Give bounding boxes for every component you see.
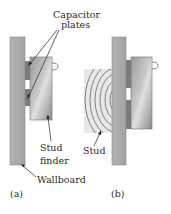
label-stud-finder-line1: Stud [40,142,63,153]
stud-finder-a [30,57,52,120]
caption-a: (a) [10,188,23,199]
caption-b: (b) [111,188,125,199]
hanging-loop-b-icon [152,62,158,69]
hanging-loop-a-icon [52,63,58,70]
stud-finder-b [131,57,152,129]
label-stud: Stud [83,145,106,156]
wallboard-b [112,37,126,165]
leader-wallboard [22,165,36,177]
wallboard-a [10,37,25,165]
label-capacitor-plates-line2: plates [61,19,90,30]
capacitor-plate-b-top [126,60,131,88]
leader-stud-finder [48,117,51,141]
label-wallboard: Wallboard [37,174,86,185]
capacitor-plate-a-bottom [25,89,30,106]
capacitor-plate-b-bottom [126,100,131,129]
label-stud-finder-line2: finder [40,155,69,166]
